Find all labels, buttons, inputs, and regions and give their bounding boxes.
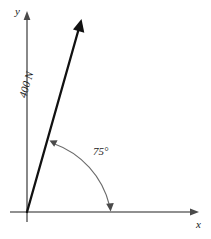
angle-arc-end-arrowhead-icon xyxy=(106,203,114,212)
y-axis-arrowhead-icon xyxy=(24,11,31,20)
angle-label: 75° xyxy=(93,146,108,157)
x-axis-arrowhead-icon xyxy=(190,209,199,216)
force-vector-line xyxy=(27,28,79,212)
angle-arc-start-arrowhead-icon xyxy=(50,140,58,147)
force-vector-arrowhead-icon xyxy=(73,19,84,33)
x-axis-label: x xyxy=(196,219,201,230)
force-vector-diagram: y x 400 N 75° xyxy=(0,0,211,239)
y-axis-label: y xyxy=(15,6,20,17)
diagram-canvas xyxy=(0,0,211,239)
